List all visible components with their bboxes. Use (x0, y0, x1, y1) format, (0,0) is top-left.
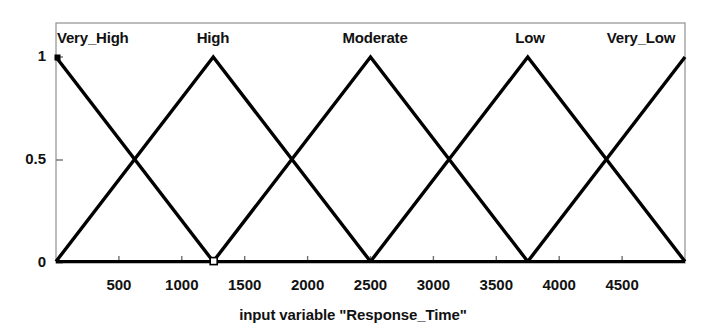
fuzzy-membership-chart: Very_High High Moderate Low Very_Low 1 0… (0, 0, 706, 336)
ytick-label-1: 1 (0, 47, 46, 64)
xtick-label-4500: 4500 (605, 276, 638, 293)
mf-label-very-low: Very_Low (607, 29, 675, 46)
xtick-label-2000: 2000 (291, 276, 324, 293)
mf-label-low: Low (515, 29, 544, 46)
mf-label-very-high: Very_High (57, 29, 129, 46)
xtick-label-4000: 4000 (543, 276, 576, 293)
xtick-label-3500: 3500 (480, 276, 513, 293)
mf-label-high: High (197, 29, 230, 46)
xtick-label-1500: 1500 (228, 276, 261, 293)
xtick-label-1000: 1000 (165, 276, 198, 293)
xtick-label-2500: 2500 (354, 276, 387, 293)
ytick-label-0point5: 0.5 (0, 150, 46, 167)
x-axis-title: input variable "Response_Time" (0, 306, 706, 323)
xtick-label-500: 500 (106, 276, 131, 293)
mf-label-moderate: Moderate (342, 29, 407, 46)
xtick-label-3000: 3000 (417, 276, 450, 293)
ytick-label-0: 0 (0, 253, 46, 270)
